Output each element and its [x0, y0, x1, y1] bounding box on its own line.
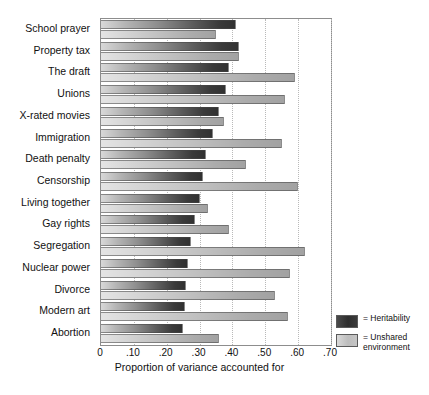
bar-row [101, 149, 331, 171]
x-tick-label: .60 [290, 347, 304, 358]
legend-item-heritability: = Heritability [336, 314, 428, 328]
category-label: Unions [57, 88, 90, 99]
category-label: X-rated movies [19, 110, 90, 121]
bar-unshared-environment [101, 95, 285, 104]
bar-row [101, 236, 331, 258]
x-axis-title: Proportion of variance accounted for [0, 361, 429, 373]
bar-heritability [101, 194, 200, 203]
bar-unshared-environment [101, 182, 298, 191]
legend-swatch-unshared-environment-icon [336, 334, 358, 347]
bar-unshared-environment [101, 247, 305, 256]
bar-unshared-environment [101, 334, 219, 343]
bar-heritability [101, 324, 183, 333]
chart-legend: = Heritability = Unshared environment [336, 314, 428, 357]
category-label: Death penalty [25, 153, 90, 164]
bar-heritability [101, 42, 239, 51]
x-axis-ticks: 0.10.20.30.40.50.60.70 [100, 347, 330, 361]
bar-heritability [101, 129, 213, 138]
legend-label-heritability: = Heritability [363, 314, 410, 324]
bar-heritability [101, 107, 219, 116]
category-label: Living together [21, 197, 90, 208]
bar-unshared-environment [101, 73, 295, 82]
legend-swatch-heritability-icon [336, 315, 358, 328]
x-tick-label: .10 [126, 347, 140, 358]
category-label: School prayer [25, 23, 90, 34]
bar-row [101, 128, 331, 150]
category-label: The draft [48, 66, 90, 77]
bar-row [101, 215, 331, 237]
bar-row [101, 302, 331, 324]
x-tick-label: .40 [224, 347, 238, 358]
bar-unshared-environment [101, 269, 290, 278]
bar-heritability [101, 259, 188, 268]
legend-item-unshared-environment: = Unshared environment [336, 333, 428, 352]
bar-row [101, 193, 331, 215]
category-label: Immigration [35, 132, 90, 143]
bar-unshared-environment [101, 291, 275, 300]
bar-row [101, 84, 331, 106]
bar-unshared-environment [101, 117, 224, 126]
bar-unshared-environment [101, 312, 288, 321]
bar-row [101, 280, 331, 302]
bar-heritability [101, 215, 195, 224]
bar-heritability [101, 85, 226, 94]
bar-heritability [101, 150, 206, 159]
bar-unshared-environment [101, 52, 239, 61]
bar-row [101, 106, 331, 128]
gridline [331, 19, 333, 345]
bar-heritability [101, 172, 203, 181]
category-label: Nuclear power [22, 262, 90, 273]
x-tick-label: 0 [97, 347, 103, 358]
bar-unshared-environment [101, 204, 208, 213]
x-tick-label: .70 [323, 347, 337, 358]
bar-heritability [101, 281, 186, 290]
bar-row [101, 19, 331, 41]
bar-row [101, 258, 331, 280]
bar-row [101, 41, 331, 63]
x-tick-label: .50 [257, 347, 271, 358]
category-label: Segregation [33, 240, 90, 251]
bar-unshared-environment [101, 30, 216, 39]
category-label: Gay rights [42, 218, 90, 229]
category-label: Abortion [51, 327, 90, 338]
x-tick-label: .30 [192, 347, 206, 358]
category-label: Divorce [54, 284, 90, 295]
x-axis-title-text: Proportion of variance accounted for [115, 361, 284, 373]
legend-label-unshared-environment: = Unshared environment [363, 333, 428, 352]
bar-heritability [101, 63, 229, 72]
plot-area [100, 18, 332, 346]
bar-unshared-environment [101, 160, 246, 169]
bar-row [101, 323, 331, 345]
category-axis-labels: School prayerProperty taxThe draftUnions… [0, 18, 96, 344]
bar-row [101, 62, 331, 84]
bar-unshared-environment [101, 225, 229, 234]
bar-heritability [101, 20, 236, 29]
bar-row [101, 171, 331, 193]
bar-unshared-environment [101, 139, 282, 148]
bar-heritability [101, 237, 191, 246]
bar-heritability [101, 302, 185, 311]
bar-chart: School prayerProperty taxThe draftUnions… [0, 0, 429, 395]
category-label: Property tax [33, 45, 90, 56]
category-label: Censorship [37, 175, 90, 186]
x-tick-label: .20 [159, 347, 173, 358]
category-label: Modern art [39, 305, 90, 316]
